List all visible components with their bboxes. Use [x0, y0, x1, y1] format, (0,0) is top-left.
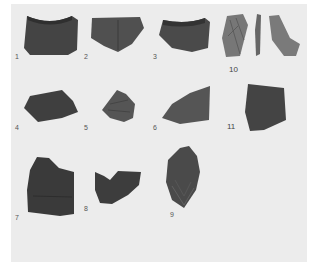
sherd-10 [222, 14, 300, 57]
label-2: 2 [84, 53, 88, 60]
label-3: 3 [153, 53, 157, 60]
sherd-5 [102, 90, 135, 122]
sherd-8 [95, 171, 141, 204]
sherd-2 [91, 17, 144, 52]
sherd-11 [245, 84, 286, 131]
sherd-6 [162, 86, 210, 124]
label-8: 8 [84, 205, 88, 212]
sherd-9 [166, 146, 200, 208]
sherds-illustration [0, 0, 309, 270]
label-10: 10 [229, 66, 238, 74]
label-7: 7 [15, 214, 19, 221]
label-5: 5 [84, 124, 88, 131]
label-4: 4 [15, 124, 19, 131]
sherd-7 [27, 157, 74, 216]
sherd-1 [24, 16, 78, 55]
label-11: 11 [227, 123, 235, 131]
sherd-3 [159, 18, 210, 52]
label-9: 9 [170, 211, 174, 218]
label-6: 6 [153, 124, 157, 131]
sherd-4 [24, 90, 78, 122]
label-1: 1 [15, 53, 19, 60]
